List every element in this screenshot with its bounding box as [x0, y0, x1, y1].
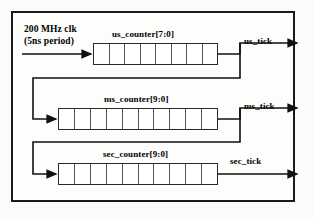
diagram-canvas: 200 MHz clk (5ns period) us_counter[7:0]…: [0, 0, 314, 220]
us-tick-output-wire: [218, 43, 297, 54]
ms-tick-output-wire: [218, 108, 297, 119]
ms-to-sec-feedback-wire: [33, 108, 240, 174]
wiring-layer: [0, 0, 314, 220]
